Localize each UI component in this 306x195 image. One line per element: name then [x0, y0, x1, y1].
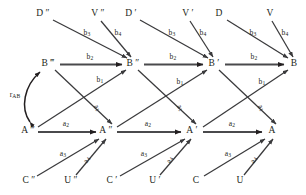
node-U: U: [236, 176, 243, 186]
edge-b4-col1: [272, 21, 293, 57]
path-diagram: D ″ V ″ D ′ V ′ D V B ‴ B ″ B ′ B A ‴ A …: [0, 0, 306, 195]
edge-label-r-ab: rAB: [10, 91, 21, 99]
edges-diagonal-b1: [38, 70, 288, 127]
edge-b1-col3: [38, 70, 126, 127]
node-D: D: [215, 9, 222, 19]
edge-b1-col2: [117, 70, 207, 127]
edge-label-b3-col1: b3: [250, 29, 257, 37]
node-A-prime: A ′: [186, 126, 197, 136]
node-B-double-prime: B ″: [127, 59, 140, 69]
edge-b3-col1: [227, 20, 288, 58]
edge-label-b3-col3: b3: [84, 29, 91, 37]
edge-label-b2-col3: b2: [87, 53, 94, 61]
edge-b1-col1: [203, 70, 288, 127]
edge-label-b2-col1: b2: [251, 53, 258, 61]
node-B-triple-prime: B ‴: [42, 59, 55, 69]
node-C-prime: C ′: [107, 176, 118, 186]
node-B-prime: B ′: [209, 59, 220, 69]
edge-label-a2-col2: a2: [145, 120, 151, 128]
edge-label-a3-col1: a3: [225, 150, 231, 158]
edge-label-b1-col2: b1: [177, 78, 184, 86]
node-V-double-prime: V ″: [91, 9, 104, 19]
edge-a1-col3: [55, 70, 112, 124]
edge-label-b1-col3: b1: [97, 76, 104, 84]
edge-label-a3-col3: a3: [60, 150, 66, 158]
edge-label-b4-col1: b4: [282, 29, 289, 37]
edge-label-b4-col2: b4: [200, 29, 207, 37]
node-A-double-prime: A ″: [99, 126, 112, 136]
edge-label-b1-col1: b1: [259, 78, 266, 86]
diagram-edges-layer: [0, 0, 306, 195]
edge-a1-col2: [138, 70, 196, 124]
edge-label-a2-col3: a2: [63, 120, 69, 128]
edge-label-b2-col2: b2: [170, 53, 177, 61]
edge-a1-col1: [219, 70, 276, 124]
node-V-prime: V ′: [182, 9, 193, 19]
node-U-double-prime: U ″: [64, 176, 77, 186]
edge-label-b3-col2: b3: [169, 29, 176, 37]
node-A: A: [268, 126, 275, 136]
node-C-double-prime: C ″: [23, 176, 36, 186]
node-D-double-prime: D ″: [36, 9, 49, 19]
node-D-prime: D ′: [125, 9, 136, 19]
node-U-prime: U ′: [149, 176, 160, 186]
node-B: B: [291, 59, 298, 69]
edge-b4-col3: [101, 21, 131, 57]
edge-b4-col2: [190, 21, 213, 57]
node-C: C: [193, 176, 200, 186]
edge-label-b4-col3: b4: [115, 29, 122, 37]
edge-label-a2-col1: a2: [229, 120, 235, 128]
edge-r-ab-curved-double: [25, 72, 40, 122]
node-A-triple-prime: A ‴: [21, 126, 34, 136]
edge-label-a3-col2: a3: [141, 150, 147, 158]
node-V: V: [266, 9, 273, 19]
